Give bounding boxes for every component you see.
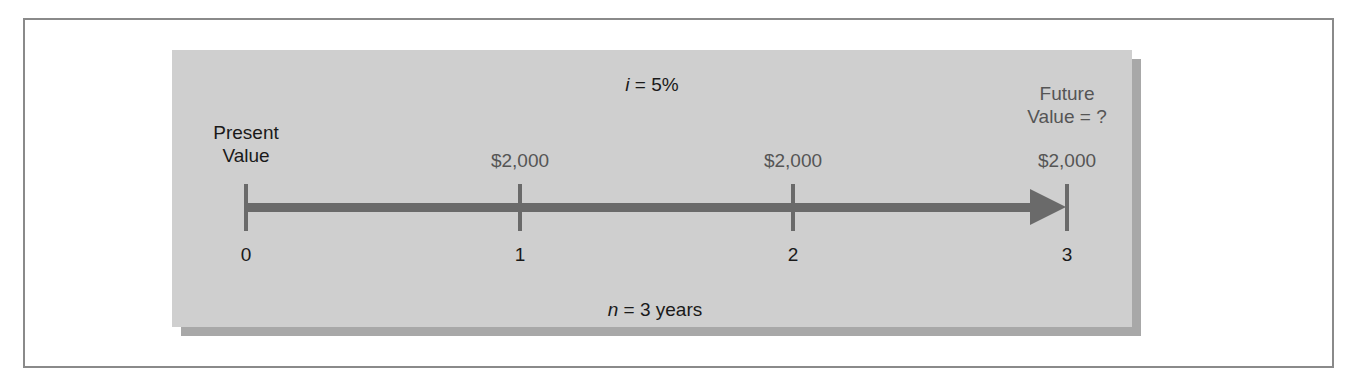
- period-label-0: 0: [241, 243, 252, 266]
- future-value-label: Future Value = ?: [1027, 82, 1106, 128]
- payment-label-2: $2,000: [764, 149, 822, 172]
- tick-0: [244, 184, 248, 231]
- period-label-2: 2: [788, 243, 799, 266]
- period-label-3: 3: [1062, 243, 1073, 266]
- payment-label-1: $2,000: [491, 149, 549, 172]
- tick-2: [791, 184, 795, 231]
- tick-1: [518, 184, 522, 231]
- present-value-label: Present Value: [213, 121, 278, 167]
- arrow-right-icon: [1030, 189, 1066, 225]
- timeline-axis: [245, 203, 1040, 212]
- period-label-1: 1: [515, 243, 526, 266]
- periods-label: n = 3 years: [608, 299, 703, 321]
- interest-rate-label: i = 5%: [625, 74, 678, 96]
- payment-label-3: $2,000: [1038, 149, 1096, 172]
- tick-3: [1065, 184, 1069, 231]
